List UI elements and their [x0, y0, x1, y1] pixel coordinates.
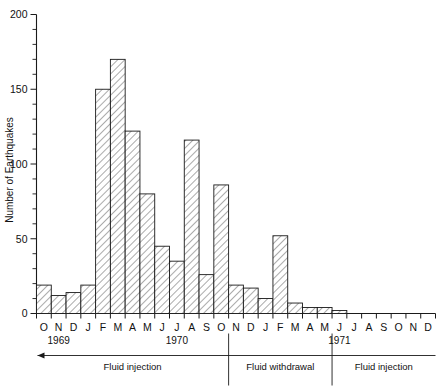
x-tick-label: D — [70, 321, 78, 333]
x-tick-label: D — [247, 321, 255, 333]
phase-label: Fluid injection — [104, 361, 162, 372]
y-tick-label: 0 — [22, 307, 28, 319]
x-tick-label: A — [306, 321, 313, 333]
x-tick-label: M — [143, 321, 152, 333]
year-labels: 196919701971 — [48, 335, 351, 346]
x-tick-label: M — [113, 321, 122, 333]
bar — [51, 296, 66, 314]
x-tick-label: D — [424, 321, 432, 333]
y-axis-title: Number of Earthquakes — [4, 117, 15, 223]
x-tick-label: N — [410, 321, 418, 333]
x-axis — [37, 314, 436, 319]
x-tick-label: A — [129, 321, 136, 333]
bar — [258, 299, 273, 314]
x-tick-label: J — [159, 321, 164, 333]
x-tick-label: J — [174, 321, 179, 333]
bar — [81, 285, 96, 313]
year-label: 1970 — [166, 335, 189, 346]
y-tick-label: 150 — [10, 83, 28, 95]
x-tick-label: J — [86, 321, 91, 333]
x-tick-labels: ONDJFMAMJJASONDJFMAMJJASOND — [40, 321, 433, 333]
bar — [273, 236, 288, 314]
x-tick-label: F — [277, 321, 283, 333]
x-tick-label: A — [188, 321, 195, 333]
bar — [214, 185, 229, 314]
x-tick-label: S — [380, 321, 387, 333]
earthquake-bar-chart: 050100150200 ONDJFMAMJJASONDJFMAMJJASOND… — [0, 0, 443, 389]
bar — [303, 308, 318, 314]
bar — [110, 59, 125, 313]
x-tick-label: M — [320, 321, 329, 333]
bar — [37, 285, 52, 313]
phase-label: Fluid withdrawal — [246, 361, 314, 372]
x-tick-label: J — [263, 321, 268, 333]
y-tick-label: 200 — [10, 8, 28, 20]
x-tick-label: F — [100, 321, 106, 333]
bar — [199, 275, 214, 314]
bar — [140, 194, 155, 314]
x-tick-label: M — [291, 321, 300, 333]
x-tick-label: O — [40, 321, 48, 333]
bar — [96, 89, 111, 313]
bar — [317, 308, 332, 314]
bar — [332, 311, 347, 314]
bar — [66, 293, 81, 314]
bar — [125, 131, 140, 313]
phase-annotations: Fluid injectionFluid withdrawalFluid inj… — [38, 334, 436, 386]
x-tick-label: O — [217, 321, 225, 333]
x-tick-label: S — [203, 321, 210, 333]
phase-label: Fluid injection — [355, 361, 413, 372]
x-tick-label: J — [352, 321, 357, 333]
x-tick-label: N — [55, 321, 63, 333]
bars-group — [37, 59, 347, 313]
chart-canvas: 050100150200 ONDJFMAMJJASONDJFMAMJJASOND… — [0, 0, 443, 389]
x-tick-label: A — [365, 321, 372, 333]
bar — [229, 285, 244, 313]
x-tick-label: J — [337, 321, 342, 333]
bar — [155, 246, 170, 313]
phase-arrow-icon — [38, 353, 45, 359]
bar — [288, 303, 303, 313]
x-tick-label: O — [394, 321, 402, 333]
bar — [170, 261, 185, 313]
x-tick-label: N — [232, 321, 240, 333]
bar — [184, 140, 199, 313]
bar — [243, 288, 258, 313]
y-tick-label: 50 — [16, 233, 28, 245]
year-label: 1969 — [48, 335, 71, 346]
